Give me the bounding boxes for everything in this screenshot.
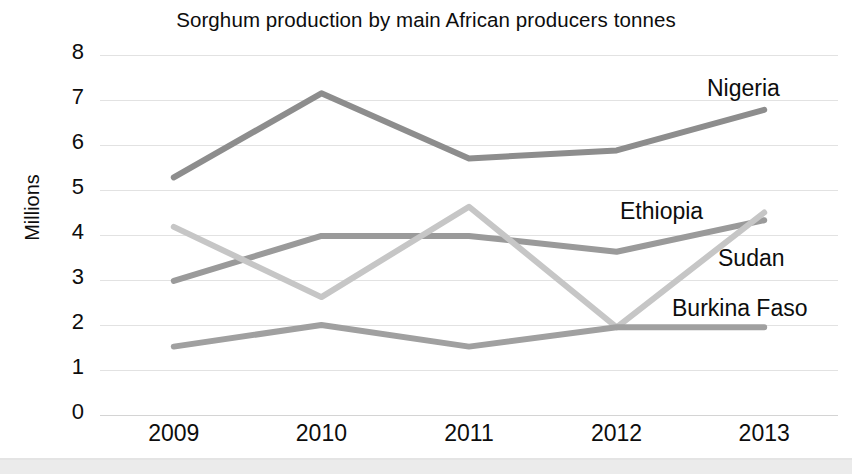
y-tick-7: 7 [48, 86, 84, 108]
y-tick-1: 1 [48, 356, 84, 378]
series-line-nigeria [174, 93, 764, 177]
x-tick-2010: 2010 [261, 420, 381, 447]
y-tick-4: 4 [48, 221, 84, 243]
x-tick-2009: 2009 [114, 420, 234, 447]
y-tick-3: 3 [48, 266, 84, 288]
series-line-burkina-faso [174, 325, 764, 347]
bottom-scan-artifact [0, 458, 852, 474]
x-tick-2013: 2013 [704, 420, 824, 447]
y-tick-2: 2 [48, 311, 84, 333]
series-label-nigeria: Nigeria [707, 75, 780, 102]
x-axis-tick-labels: 20092010201120122013 [100, 420, 838, 456]
gridline-0 [100, 415, 838, 416]
series-label-burkina-faso: Burkina Faso [672, 295, 808, 322]
series-lines [100, 55, 838, 415]
series-label-ethiopia: Ethiopia [620, 198, 703, 225]
y-tick-5: 5 [48, 176, 84, 198]
x-tick-2011: 2011 [409, 420, 529, 447]
chart-container: Sorghum production by main African produ… [0, 0, 852, 474]
x-tick-2012: 2012 [557, 420, 677, 447]
plot-area: NigeriaEthiopiaSudanBurkina Faso [100, 55, 838, 415]
y-tick-6: 6 [48, 131, 84, 153]
y-tick-8: 8 [48, 41, 84, 63]
chart-title: Sorghum production by main African produ… [0, 8, 852, 32]
series-label-sudan: Sudan [718, 245, 785, 272]
y-tick-0: 0 [48, 401, 84, 423]
